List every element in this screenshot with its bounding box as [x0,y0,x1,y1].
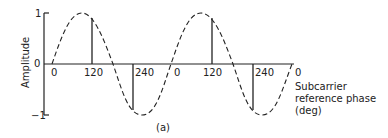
x-axis-label-line1: Subcarrier [295,81,347,92]
x-axis-label-line2: reference phase [295,93,376,104]
x-tick-120: 120 [84,67,103,78]
x-tick-240-second: 240 [255,67,274,78]
y-axis-label: Amplitude [20,37,31,88]
figure-caption: (a) [156,122,170,133]
x-tick-120-second: 120 [203,67,222,78]
x-tick-0: 0 [51,67,57,78]
y-tick-0: 0 [34,58,40,69]
x-axis-label-line3: (deg) [295,105,322,116]
y-tick-1: 1 [35,8,41,19]
x-tick-0-third: 0 [295,67,301,78]
y-tick-minus-1: −1 [31,110,46,121]
x-tick-240: 240 [135,67,154,78]
x-tick-0-second: 0 [174,67,180,78]
phase-diagram [0,0,388,138]
